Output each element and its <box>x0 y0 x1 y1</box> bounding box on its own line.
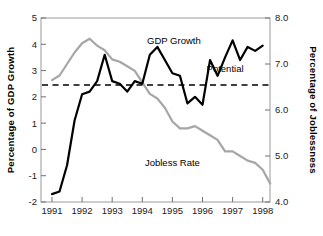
right-tick-label: 4.0 <box>275 196 288 207</box>
x-tick-label: 1996 <box>192 205 213 216</box>
x-tick-label: 1997 <box>222 205 243 216</box>
right-tick-label: 8.0 <box>275 12 288 23</box>
x-tick-label: 1994 <box>132 205 153 216</box>
left-tick-label: 3 <box>32 65 37 76</box>
left-tick-label: 1 <box>32 118 37 129</box>
left-tick-label: -2 <box>29 196 37 207</box>
left-tick-label: 4 <box>32 39 37 50</box>
x-tick-label: 1993 <box>102 205 123 216</box>
right-tick-label: 7.0 <box>275 58 288 69</box>
x-tick-label: 1991 <box>41 205 62 216</box>
x-tick-label: 1992 <box>72 205 93 216</box>
right-tick-label: 5.0 <box>275 150 288 161</box>
jobless-rate-label: Jobless Rate <box>145 157 200 168</box>
left-axis-title: Percentage of GDP Growth <box>5 47 16 174</box>
left-tick-label: -1 <box>29 170 37 181</box>
chart-container: -2-1012345 4.05.06.07.08.0 1991199219931… <box>0 0 323 236</box>
dual-axis-line-chart: -2-1012345 4.05.06.07.08.0 1991199219931… <box>0 0 323 236</box>
x-tick-label: 1998 <box>252 205 273 216</box>
left-tick-label: 5 <box>32 12 37 23</box>
left-tick-label: 2 <box>32 91 37 102</box>
right-axis-title: Percentage of Joblessness <box>308 46 319 174</box>
potential-label: Potential <box>207 63 244 74</box>
x-tick-label: 1995 <box>162 205 183 216</box>
right-tick-label: 6.0 <box>275 104 288 115</box>
gdp-growth-label: GDP Growth <box>147 35 201 46</box>
left-tick-label: 0 <box>32 144 37 155</box>
